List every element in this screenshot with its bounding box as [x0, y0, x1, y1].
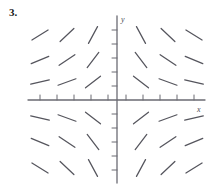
slope-segment [186, 163, 202, 173]
slope-segment [60, 161, 74, 174]
slope-segment [86, 76, 101, 88]
slope-segment [136, 27, 145, 44]
slope-segment [136, 160, 145, 177]
axis-group [28, 16, 205, 183]
slope-segment [134, 112, 149, 124]
slope-segment [185, 56, 203, 63]
slope-segment [159, 115, 177, 121]
slope-segment [159, 79, 177, 85]
slope-field-figure: 3. x y [0, 0, 212, 188]
slope-segment [86, 112, 101, 124]
slope-segment [160, 55, 176, 66]
slope-segment [185, 138, 203, 145]
slope-segment [31, 138, 49, 145]
slope-segment [87, 52, 99, 67]
slope-segment [58, 79, 76, 85]
slope-segment [60, 28, 74, 41]
slope-segment [87, 134, 99, 149]
slope-segment [88, 27, 97, 44]
slope-segment [186, 30, 202, 40]
slope-segment [161, 28, 175, 41]
slope-segment [32, 30, 48, 40]
slope-segment [161, 161, 175, 174]
slope-segment [58, 115, 76, 121]
slope-segment [134, 76, 149, 88]
x-axis-label: x [196, 105, 201, 114]
slope-segment [59, 55, 75, 66]
slope-segment [31, 116, 50, 120]
slope-segment [32, 163, 48, 173]
slope-segment [185, 80, 204, 84]
slope-segment [88, 160, 97, 177]
slope-field-plot: x y [0, 0, 212, 188]
slope-segment [185, 116, 204, 120]
slope-segment [31, 80, 50, 84]
slope-segment [59, 137, 75, 148]
slope-segment [31, 56, 49, 63]
slope-segment [135, 134, 147, 149]
slope-segment [135, 52, 147, 67]
y-axis-label: y [120, 15, 125, 24]
slope-segment [160, 137, 176, 148]
